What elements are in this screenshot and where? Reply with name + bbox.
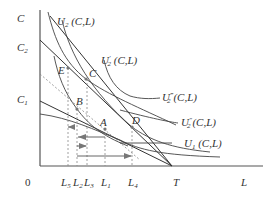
x-tick-l1: L1 — [100, 176, 111, 190]
point-e — [66, 66, 69, 69]
label-u2-prime: U′2 (C,L) — [101, 54, 138, 68]
point-c — [84, 77, 87, 80]
arrowhead-right-icon — [79, 143, 87, 149]
diagram-canvas: E C B A D C L 0 C2 C1 L5 L2 L3 L1 L4 T U… — [0, 0, 275, 198]
label-a: A — [99, 116, 107, 128]
x-tick-l3: L3 — [83, 176, 94, 190]
origin-label: 0 — [25, 176, 31, 188]
y-tick-c1: C1 — [17, 93, 28, 107]
point-b — [75, 107, 78, 110]
arrowhead-right-icon — [124, 153, 132, 159]
x-tick-l4: L4 — [127, 176, 138, 190]
label-u1: U1 (C,L) — [184, 137, 222, 151]
labor-leisure-diagram: E C B A D C L 0 C2 C1 L5 L2 L3 L1 L4 T U… — [0, 0, 275, 198]
label-e: E — [57, 64, 65, 76]
arrowhead-left-icon — [68, 124, 75, 130]
y-axis-label: C — [17, 12, 25, 24]
x-axis-label: L — [240, 176, 247, 188]
label-u2: U2 (C,L) — [57, 15, 95, 29]
x-tick-l5: L5 — [60, 176, 71, 190]
arrowhead-left-icon — [78, 134, 86, 140]
x-tick-l2: L2 — [72, 176, 83, 190]
curve-u2-double-prime — [120, 110, 178, 123]
label-d: D — [131, 114, 140, 126]
label-u2-double-prime: U″2(C,L) — [181, 116, 216, 130]
label-c: C — [89, 67, 97, 79]
x-tick-t: T — [173, 176, 180, 188]
label-b: B — [76, 95, 83, 107]
budget-line-steep — [50, 16, 172, 166]
y-tick-c2: C2 — [17, 41, 28, 55]
label-u2-triple-prime: U‴2(C,L) — [162, 91, 197, 105]
